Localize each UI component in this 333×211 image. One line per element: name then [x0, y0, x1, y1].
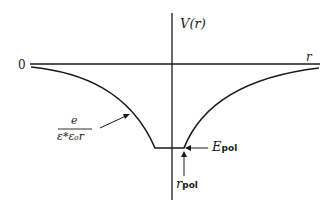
zero-label: 0 — [18, 58, 26, 72]
rpol-label: rpol — [176, 176, 198, 191]
y-axis-label: V(r) — [180, 16, 206, 31]
fraction-numerator: e — [71, 114, 78, 127]
fraction-denominator: ε*ε₀r — [57, 130, 84, 143]
fraction-arrow — [100, 115, 128, 128]
fraction-arrow-head — [123, 114, 130, 119]
rpol-arrow-head — [181, 151, 187, 157]
potential-diagram — [0, 0, 333, 211]
epol-arrow-head — [185, 145, 191, 151]
x-axis-label: r — [306, 50, 312, 64]
epol-label: Epol — [212, 139, 237, 154]
